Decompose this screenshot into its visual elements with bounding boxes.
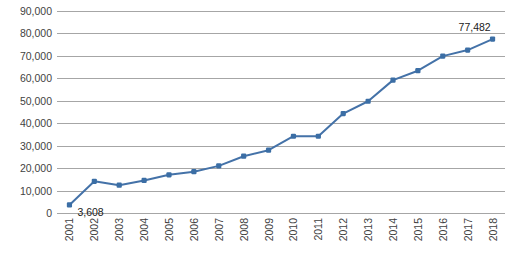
x-axis-labels: 2001200220032004200520062007200820092010… [57,216,505,259]
y-axis-tick-label: 70,000 [0,51,52,62]
x-axis-tick-label: 2012 [338,218,349,241]
data-point-marker [166,172,171,177]
data-point-marker [440,54,445,59]
data-point-marker [341,111,346,116]
y-axis-tick-label: 0 [0,208,52,219]
y-axis-tick-label: 30,000 [0,140,52,151]
data-point-marker [291,134,296,139]
data-point-marker [415,68,420,73]
x-axis-tick-label: 2003 [114,218,125,241]
x-axis-tick-label: 2004 [139,218,150,241]
x-axis-tick-label: 2009 [264,218,275,241]
data-point-marker [92,179,97,184]
data-point-marker [142,178,147,183]
x-axis-tick-label: 2010 [288,218,299,241]
data-point-marker [316,134,321,139]
data-point-marker [117,183,122,188]
y-axis-labels: 010,00020,00030,00040,00050,00060,00070,… [0,0,52,259]
data-point-marker [191,169,196,174]
x-axis-tick-label: 2008 [239,218,250,241]
plot-area: 3,60877,482 [57,11,505,213]
y-axis-tick-label: 20,000 [0,163,52,174]
x-axis-tick-label: 2001 [64,218,75,241]
x-axis-tick-label: 2018 [488,218,499,241]
x-axis-tick-label: 2005 [164,218,175,241]
data-point-marker [366,99,371,104]
y-axis-tick-label: 90,000 [0,6,52,17]
data-point-value-label: 77,482 [459,22,491,33]
y-axis-tick-label: 50,000 [0,96,52,107]
x-axis-tick-label: 2017 [463,218,474,241]
data-point-marker [390,78,395,83]
data-point-marker [241,154,246,159]
data-point-marker [67,202,72,207]
x-axis-tick-label: 2011 [313,218,324,241]
series-polyline [69,39,492,205]
line-chart: 010,00020,00030,00040,00050,00060,00070,… [0,0,524,259]
y-axis-tick-label: 60,000 [0,73,52,84]
x-axis-tick-label: 2015 [413,218,424,241]
x-axis-tick-label: 2006 [189,218,200,241]
y-axis-tick-label: 80,000 [0,28,52,39]
x-axis-tick-label: 2002 [89,218,100,241]
x-axis-tick-label: 2014 [388,218,399,241]
data-point-marker [216,163,221,168]
data-series-line [57,11,505,213]
x-axis-tick-label: 2016 [438,218,449,241]
x-axis-tick-label: 2013 [363,218,374,241]
data-point-marker [490,37,495,42]
gridline [57,213,505,214]
y-axis-tick-label: 10,000 [0,185,52,196]
data-point-marker [266,148,271,153]
x-axis-tick-label: 2007 [214,218,225,241]
y-axis-tick-label: 40,000 [0,118,52,129]
data-point-marker [465,47,470,52]
